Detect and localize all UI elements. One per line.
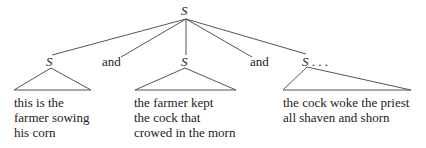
leaf-text-s3: the cock woke the priest all shaven and … — [283, 95, 409, 125]
conjunction-and-1: and — [102, 55, 121, 68]
leaf-line: farmer sowing — [14, 110, 89, 125]
node-s1: S — [46, 55, 53, 68]
leaf-text-s2: the farmer kept the cock that crowed in … — [134, 95, 235, 140]
triangle-s2 — [135, 68, 236, 90]
leaf-line: this is the — [14, 95, 89, 110]
leaf-line: the cock that — [134, 110, 235, 125]
edge-root-to-s3 — [186, 19, 306, 54]
conjunction-and-2: and — [250, 55, 269, 68]
edge-root-to-s1 — [52, 19, 186, 55]
node-s3-ellipsis: . . . — [309, 54, 329, 69]
edge-root-to-and2 — [186, 19, 252, 57]
leaf-line: his corn — [14, 125, 89, 140]
edge-root-to-and1 — [121, 19, 186, 57]
leaf-line: all shaven and shorn — [283, 110, 409, 125]
leaf-line: the farmer kept — [134, 95, 235, 110]
leaf-line: crowed in the morn — [134, 125, 235, 140]
triangle-s1 — [14, 68, 91, 90]
triangle-s3 — [283, 67, 411, 90]
root-node-s: S — [181, 4, 188, 17]
node-s2: S — [181, 55, 188, 68]
leaf-line: the cock woke the priest — [283, 95, 409, 110]
node-s3: S . . . — [302, 55, 328, 68]
leaf-text-s1: this is the farmer sowing his corn — [14, 95, 89, 140]
